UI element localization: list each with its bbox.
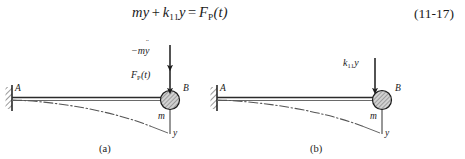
equation-displacement-symbol: y bbox=[179, 4, 186, 20]
applied-force-label: FP(t) bbox=[131, 70, 150, 81]
equation-force-symbol: F bbox=[199, 4, 208, 20]
y-axis-label: y bbox=[385, 129, 389, 139]
inertia-force-prefix: −m bbox=[131, 45, 145, 56]
mass-label-m: m bbox=[158, 112, 165, 122]
support-hatching bbox=[211, 87, 218, 109]
governing-equation: m¨y+k11y=FP(t) bbox=[132, 4, 228, 22]
equation-mass-symbol: m bbox=[132, 4, 143, 20]
equation-acceleration-term: ¨y bbox=[143, 4, 150, 21]
curve-tip-connector bbox=[150, 126, 168, 133]
applied-force-suffix: (t) bbox=[141, 69, 150, 80]
panel-a-caption: (a) bbox=[99, 143, 111, 154]
figure-container: A B m y −m¨y FP(t) (a) bbox=[0, 26, 465, 159]
equation-stiffness-subscript: 11 bbox=[169, 12, 179, 22]
curve-tip-connector bbox=[362, 126, 380, 133]
inertia-force-label: −m¨y bbox=[131, 46, 149, 56]
figure-panel-a: A B m y −m¨y FP(t) (a) bbox=[0, 26, 232, 159]
double-dot-accent: ¨ bbox=[146, 39, 148, 47]
equation-equals-operator: = bbox=[186, 4, 199, 20]
elastic-force-symbol: y bbox=[354, 57, 358, 68]
mass-label-m: m bbox=[370, 112, 377, 122]
panel-a-drawing bbox=[0, 26, 232, 159]
panel-b-caption: (b) bbox=[310, 143, 322, 154]
lumped-mass-circle bbox=[373, 91, 392, 110]
panel-b-drawing bbox=[205, 26, 437, 159]
deflected-shape-curve bbox=[13, 100, 150, 126]
deflected-shape-curve bbox=[218, 100, 362, 126]
inertia-force-accel: ¨y bbox=[145, 46, 149, 56]
equation-number: (11-17) bbox=[414, 6, 454, 22]
double-dot-accent: ¨ bbox=[144, 0, 147, 6]
equation-row: m¨y+k11y=FP(t) (11-17) bbox=[0, 2, 465, 26]
y-axis-label: y bbox=[173, 129, 177, 139]
equation-plus-operator: + bbox=[149, 4, 162, 20]
node-label-b: B bbox=[395, 84, 401, 94]
lumped-mass-circle bbox=[161, 91, 180, 110]
support-label-a: A bbox=[15, 84, 21, 94]
figure-panel-b: A B m y k11y (b) bbox=[205, 26, 437, 159]
equation-force-argument: (t) bbox=[213, 4, 227, 20]
support-hatching bbox=[6, 87, 13, 109]
node-label-b: B bbox=[183, 84, 189, 94]
elastic-force-label: k11y bbox=[343, 58, 359, 69]
support-label-a: A bbox=[220, 84, 226, 94]
